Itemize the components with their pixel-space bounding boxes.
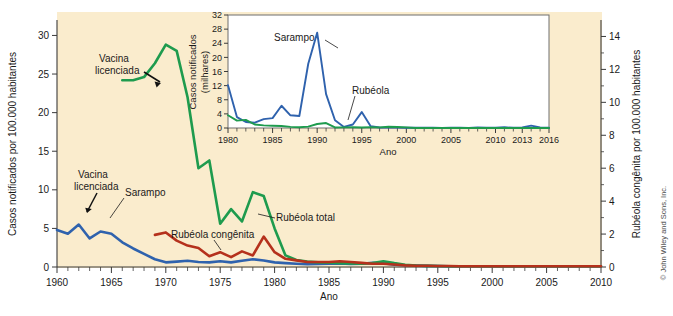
annotation-vacina-licenciada-rubeola-line2: licenciada xyxy=(95,65,140,76)
inset-x-axis-title: Ano xyxy=(380,146,397,157)
main-x-tick-label: 1995 xyxy=(427,277,450,288)
main-x-tick-label: 1960 xyxy=(46,277,69,288)
inset-y-tick-label: 0 xyxy=(217,123,222,133)
main-y-tick-label: 25 xyxy=(38,69,50,80)
annotation-vacina-licenciada-sarampo-line2: licenciada xyxy=(74,181,119,192)
main-y2-tick-label: 6 xyxy=(609,163,615,174)
main-y-tick-label: 10 xyxy=(38,184,50,195)
main-x-tick-label: 1965 xyxy=(100,277,123,288)
main-y-axis-title: Casos notificados por 100.000 habitantes xyxy=(7,52,18,236)
inset-y-axis-title-line2: (milhares) xyxy=(199,51,210,93)
main-y-tick-label: 0 xyxy=(43,262,49,273)
annotation-sarampo-label: Sarampo xyxy=(125,187,166,198)
inset-x-tick-label: 1995 xyxy=(352,135,372,145)
main-y-tick-label: 30 xyxy=(38,30,50,41)
inset-x-tick-label: 2016 xyxy=(539,135,559,145)
main-y2-tick-label: 2 xyxy=(609,229,615,240)
annotation-sarampo-label-inset: Sarampo xyxy=(274,32,315,43)
main-y2-tick-label: 4 xyxy=(609,196,615,207)
main-x-tick-label: 1970 xyxy=(155,277,178,288)
main-y2-axis-title: Rubéola congênita por 100.000 habitantes xyxy=(631,50,642,238)
main-y2-tick-label: 12 xyxy=(609,64,621,75)
copyright-credit: © John Wiley and Sons, Inc. xyxy=(659,186,668,280)
inset-x-tick-label: 1985 xyxy=(263,135,283,145)
inset-y-tick-label: 12 xyxy=(212,81,222,91)
figure-container: 0510152025300246810121419601965197019751… xyxy=(0,0,673,316)
inset-y-tick-label: 16 xyxy=(212,67,222,77)
main-y2-tick-label: 0 xyxy=(609,262,615,273)
main-y2-tick-label: 10 xyxy=(609,97,621,108)
annotation-rubeola-congenita-label: Rubéola congênita xyxy=(171,229,255,240)
main-x-tick-label: 2000 xyxy=(481,277,504,288)
main-x-axis-title: Ano xyxy=(320,291,338,302)
annotation-vacina-licenciada-sarampo-line1: Vacina xyxy=(78,169,108,180)
main-x-tick-label: 1975 xyxy=(209,277,232,288)
annotation-rubeola-total-label: Rubéola total xyxy=(276,212,335,223)
main-x-tick-label: 2010 xyxy=(590,277,613,288)
inset-y-axis-title-line1: Casos notificados xyxy=(187,34,198,109)
inset-y-tick-label: 32 xyxy=(212,10,222,20)
inset-y-tick-label: 28 xyxy=(212,24,222,34)
inset-x-tick-label: 2005 xyxy=(441,135,461,145)
chart-svg: 0510152025300246810121419601965197019751… xyxy=(0,0,673,316)
main-y2-tick-label: 14 xyxy=(609,31,621,42)
main-x-tick-label: 1980 xyxy=(263,277,286,288)
inset-y-tick-label: 8 xyxy=(217,95,222,105)
main-y-tick-label: 15 xyxy=(38,146,50,157)
inset-y-tick-label: 24 xyxy=(212,38,222,48)
main-y2-tick-label: 8 xyxy=(609,130,615,141)
main-x-tick-label: 1990 xyxy=(372,277,395,288)
inset-y-tick-label: 4 xyxy=(217,109,222,119)
inset-x-tick-label: 1980 xyxy=(218,135,238,145)
annotation-vacina-licenciada-rubeola-line1: Vacina xyxy=(99,53,129,64)
inset-x-tick-label: 2013 xyxy=(512,135,532,145)
inset-x-tick-label: 1990 xyxy=(307,135,327,145)
inset-x-tick-label: 2000 xyxy=(396,135,416,145)
main-x-tick-label: 1985 xyxy=(318,277,341,288)
main-x-tick-label: 2005 xyxy=(535,277,558,288)
main-y-tick-label: 20 xyxy=(38,107,50,118)
inset-y-tick-label: 20 xyxy=(212,53,222,63)
main-y-tick-label: 5 xyxy=(43,223,49,234)
inset-x-tick-label: 2010 xyxy=(485,135,505,145)
annotation-rubeola-label-inset: Rubéola xyxy=(352,85,390,96)
